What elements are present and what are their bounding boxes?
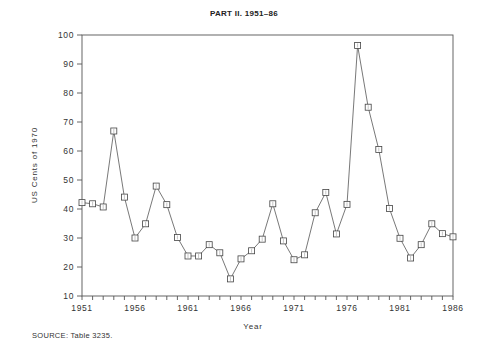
x-axis: 19511956196119661971197619811986 bbox=[71, 296, 463, 313]
x-tick-label: 1971 bbox=[283, 303, 304, 313]
x-tick-label: 1951 bbox=[71, 303, 92, 313]
x-tick-label: 1986 bbox=[442, 303, 463, 313]
data-series bbox=[79, 42, 456, 281]
y-tick-label: 80 bbox=[63, 88, 74, 98]
plot-border bbox=[82, 35, 453, 296]
x-tick-label: 1966 bbox=[230, 303, 251, 313]
plot-frame bbox=[82, 35, 453, 296]
y-tick-label: 10 bbox=[63, 291, 74, 301]
y-tick-label: 90 bbox=[63, 59, 74, 69]
y-tick-label: 70 bbox=[63, 117, 74, 127]
x-tick-label: 1981 bbox=[389, 303, 410, 313]
y-axis: 102030405060708090100 bbox=[58, 30, 82, 301]
x-tick-label: 1956 bbox=[124, 303, 145, 313]
y-tick-label: 100 bbox=[58, 30, 74, 40]
x-tick-label: 1961 bbox=[177, 303, 198, 313]
line-chart: PART II. 1951–86 102030405060708090100 1… bbox=[0, 0, 488, 350]
x-axis-label: Year bbox=[243, 322, 262, 331]
y-tick-label: 30 bbox=[63, 233, 74, 243]
y-tick-label: 60 bbox=[63, 146, 74, 156]
y-tick-label: 50 bbox=[63, 175, 74, 185]
source-note: SOURCE: Table 3235. bbox=[32, 331, 113, 340]
chart-title: PART II. 1951–86 bbox=[210, 9, 278, 18]
y-tick-label: 20 bbox=[63, 262, 74, 272]
series-line bbox=[82, 45, 453, 278]
x-tick-label: 1976 bbox=[336, 303, 357, 313]
y-axis-label: US Cents of 1970 bbox=[30, 127, 39, 203]
y-tick-label: 40 bbox=[63, 204, 74, 214]
